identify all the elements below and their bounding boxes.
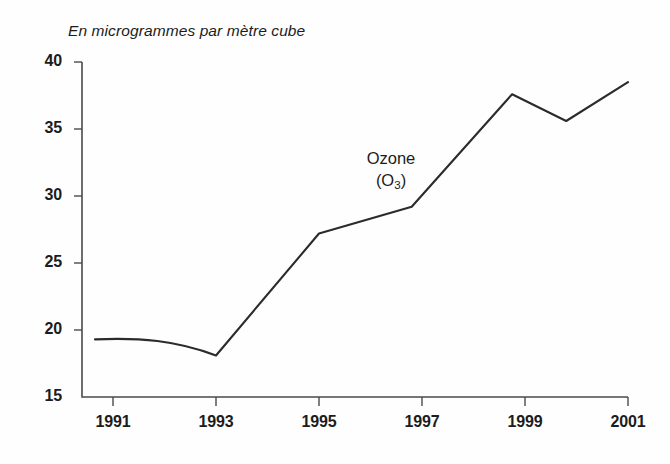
y-axis-label-35: 35 (28, 119, 62, 137)
axis-frame (82, 62, 628, 397)
formula-subscript: 3 (394, 179, 400, 191)
x-axis-label-1991: 1991 (83, 413, 143, 431)
formula-prefix: (O (376, 171, 394, 189)
y-axis-label-25: 25 (28, 253, 62, 271)
y-axis-label-20: 20 (28, 320, 62, 338)
y-axis-label-30: 30 (28, 186, 62, 204)
chart-plot-area (0, 0, 670, 464)
x-axis-label-1999: 1999 (495, 413, 555, 431)
y-axis-ticks (74, 62, 82, 330)
series-annotation-name: Ozone (336, 148, 446, 170)
y-axis-label-40: 40 (28, 52, 62, 70)
ozone-data-line (95, 82, 628, 355)
y-axis-label-15: 15 (28, 387, 62, 405)
formula-suffix: ) (401, 171, 407, 189)
x-axis-label-1997: 1997 (392, 413, 452, 431)
series-annotation-formula: (O3) (336, 170, 446, 192)
x-axis-label-1993: 1993 (186, 413, 246, 431)
x-axis-ticks (113, 397, 628, 406)
x-axis-label-2001: 2001 (598, 413, 658, 431)
x-axis-label-1995: 1995 (289, 413, 349, 431)
chart-figure: En microgrammes par mètre cube 40 35 30 … (0, 0, 670, 464)
series-annotation-ozone: Ozone (O3) (336, 148, 446, 192)
